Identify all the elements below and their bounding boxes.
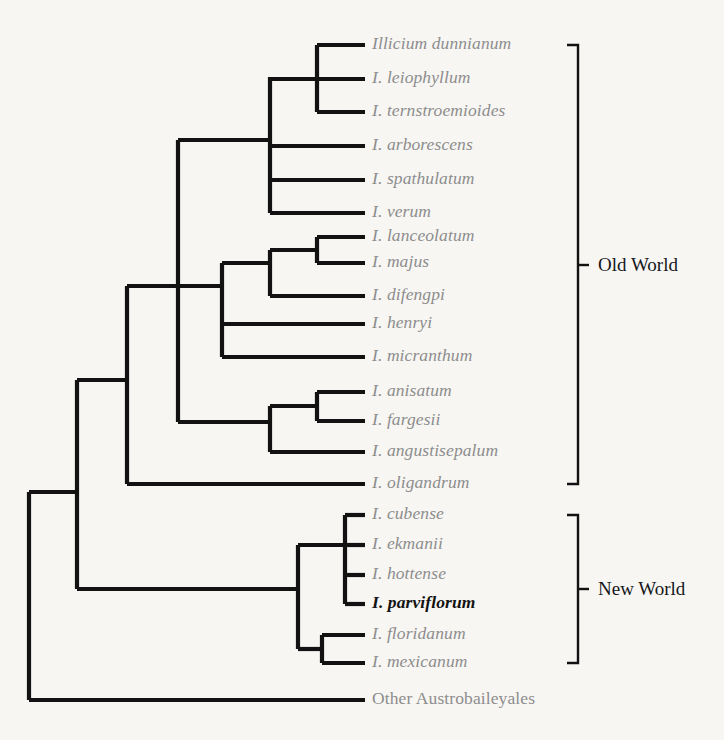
clade-label-old-world: Old World <box>598 255 678 274</box>
tip-label-micranthum: I. micranthum <box>372 347 472 365</box>
clade-label-new-world: New World <box>598 579 685 598</box>
tip-label-ekmanii: I. ekmanii <box>372 535 443 553</box>
tip-label-difengpi: I. difengpi <box>372 286 445 304</box>
tip-label-lanceolatum: I. lanceolatum <box>372 227 475 245</box>
tip-label-majus: I. majus <box>372 253 429 271</box>
tip-label-ternstroemioides: I. ternstroemioides <box>372 102 505 120</box>
bracket-old-world <box>567 45 578 484</box>
tip-label-angustisepalum: I. angustisepalum <box>372 442 498 460</box>
tip-label-mexicanum: I. mexicanum <box>372 653 467 671</box>
tip-label-verum: I. verum <box>372 203 431 221</box>
bracket-new-world <box>567 515 578 663</box>
tip-label-anisatum: I. anisatum <box>372 382 452 400</box>
tip-label-austrobaileyales: Other Austrobaileyales <box>372 690 535 708</box>
tip-label-cubense: I. cubense <box>372 505 444 523</box>
tip-label-oligandrum: I. oligandrum <box>372 474 470 492</box>
tip-label-hottense: I. hottense <box>372 565 446 583</box>
tip-label-henryi: I. henryi <box>372 314 432 332</box>
tip-label-fargesii: I. fargesii <box>372 411 441 429</box>
tip-label-dunnianum: Illicium dunnianum <box>372 35 511 53</box>
tip-label-spathulatum: I. spathulatum <box>372 170 475 188</box>
tip-label-arborescens: I. arborescens <box>372 136 473 154</box>
phylogenetic-tree-figure: Illicium dunnianum I. leiophyllum I. ter… <box>0 0 724 740</box>
tip-label-leiophyllum: I. leiophyllum <box>372 69 471 87</box>
tip-label-floridanum: I. floridanum <box>372 625 466 643</box>
tip-label-parviflorum: I. parviflorum <box>372 594 476 612</box>
tree-branches <box>0 0 724 740</box>
